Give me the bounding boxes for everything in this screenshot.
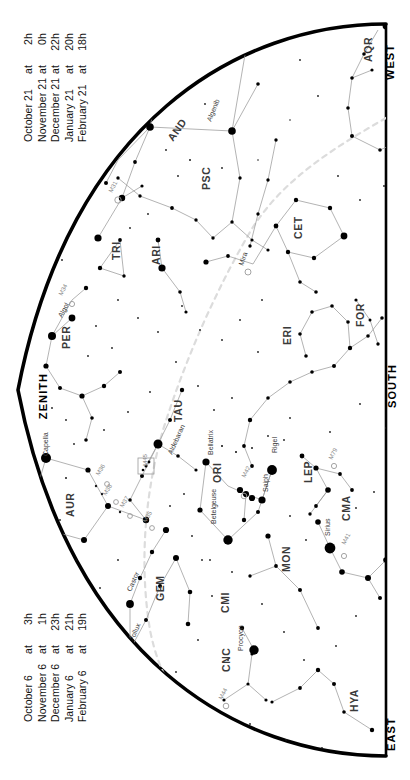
legend_top-time: 18h xyxy=(76,33,90,59)
star-label-castor: Castor xyxy=(126,570,141,592)
star-label-betelgeuse: Betelgeuse xyxy=(210,489,218,524)
dso-label-m41: M41 xyxy=(340,531,352,545)
constellation-label-aur: AUR xyxy=(64,492,76,517)
star-label-algenib: Algenib xyxy=(205,98,221,123)
legend_bottom-date: February 6 xyxy=(76,654,90,722)
legend_top-at: at xyxy=(63,59,77,74)
constellation-label-cma: CMA xyxy=(340,495,352,521)
constellation-label-per: PER xyxy=(60,326,72,349)
constellation-label-peg: PEG xyxy=(197,50,220,77)
legend_bottom-at: at xyxy=(22,639,36,654)
legend_bottom-at: at xyxy=(76,639,90,654)
dso-label-m31: M31 xyxy=(107,179,119,193)
star-label-aldebaran: Aldebaran xyxy=(167,423,186,455)
cardinal-south: SOUTH xyxy=(386,364,398,408)
legend_top-time: 2h xyxy=(22,33,36,59)
constellation-label-cmi: CMI xyxy=(219,592,231,613)
legend_top-row: December 21at22h xyxy=(49,33,63,142)
dso-label-m45: M45 xyxy=(141,453,148,466)
legend_top-row: October 21at2h xyxy=(22,33,36,142)
cardinal-zenith: ZENITH xyxy=(37,373,49,419)
legend_bottom-row: December 6at23h xyxy=(49,613,63,722)
dso-label-m34: M34 xyxy=(57,282,69,296)
legend_bottom-row: January 6at21h xyxy=(63,613,77,722)
constellation-label-tau: TAU xyxy=(172,399,184,422)
legend_top-at: at xyxy=(76,59,90,74)
star-chart: AQRPEGANDPSCCETTRIARIPERERIFORTAUAURORIL… xyxy=(0,0,410,780)
dso-label-m35: M35 xyxy=(141,509,154,523)
constellation-label-mon: MON xyxy=(280,546,292,572)
constellation-label-psc: PSC xyxy=(200,167,212,190)
constellation-label-and: AND xyxy=(165,116,189,143)
legend_bottom-date: December 6 xyxy=(49,654,63,722)
legend_top-time: 0h xyxy=(36,33,50,59)
star-label-capella: Capella xyxy=(42,432,50,456)
legend_top-row: January 21at20h xyxy=(63,33,77,142)
constellation-label-lep: LEP xyxy=(302,461,314,483)
legend_bottom-at: at xyxy=(63,639,77,654)
constellation-label-aqr: AQR xyxy=(362,37,374,62)
dso-label-m79: M79 xyxy=(327,446,339,460)
dso-label-m37: M37 xyxy=(118,494,131,508)
legend_top-row: February 21at18h xyxy=(76,33,90,142)
legend_top-at: at xyxy=(22,59,36,74)
star-label-sirius: Sirius xyxy=(324,518,331,536)
field-stars xyxy=(39,59,393,749)
legend_top-time: 20h xyxy=(63,33,77,59)
constellation-label-gem: GEM xyxy=(154,575,166,601)
legend_bottom-time: 23h xyxy=(49,613,63,639)
star-label-saiph: Saiph xyxy=(262,474,270,492)
constellation-label-ori: ORI xyxy=(211,463,223,483)
legend_bottom-at: at xyxy=(49,639,63,654)
cardinal-west: WEST xyxy=(384,44,396,80)
legend_bottom-row: November 6at1h xyxy=(36,613,50,722)
star-label-rigel: Rigel xyxy=(271,437,279,453)
constellation-label-eri: ERI xyxy=(281,326,293,345)
legend_bottom-row: February 6at19h xyxy=(76,613,90,722)
legend_top-row: November 21at0h xyxy=(36,33,50,142)
legend_bottom-time: 1h xyxy=(36,613,50,639)
constellation-label-tri: TRI xyxy=(110,241,122,260)
legend-dates-bottom: October 6at3hNovember 6at1hDecember 6at2… xyxy=(22,613,90,722)
legend-dates-top: October 21at2hNovember 21at0hDecember 21… xyxy=(22,33,90,142)
dso-label-m38: M38 xyxy=(101,482,114,496)
legend_bottom-time: 3h xyxy=(22,613,36,639)
legend_top-date: November 21 xyxy=(36,74,50,142)
star-label-bellatrix: Bellatrix xyxy=(207,430,214,455)
legend_top-at: at xyxy=(49,59,63,74)
constellation-label-cnc: CNC xyxy=(220,647,232,672)
constellation-label-hya: HYA xyxy=(348,689,360,712)
dso-label-m42: M42 xyxy=(240,464,252,478)
star-label-procyon: Procyon xyxy=(237,625,245,651)
constellation-lines xyxy=(36,30,398,730)
legend_bottom-date: October 6 xyxy=(22,654,36,722)
legend_top-time: 22h xyxy=(49,33,63,59)
legend_top-date: December 21 xyxy=(49,74,63,142)
legend_bottom-at: at xyxy=(36,639,50,654)
chart-labels: AQRPEGANDPSCCETTRIARIPERERIFORTAUAURORIL… xyxy=(42,37,374,712)
legend_bottom-time: 19h xyxy=(76,613,90,639)
constellation-label-for: FOR xyxy=(354,303,366,327)
legend_top-at: at xyxy=(36,59,50,74)
legend_bottom-date: January 6 xyxy=(63,654,77,722)
dso-label-m36: M36 xyxy=(94,462,107,476)
legend_bottom-row: October 6at3h xyxy=(22,613,36,722)
cardinal-east: EAST xyxy=(385,717,397,751)
legend_top-date: February 21 xyxy=(76,74,90,142)
legend_bottom-time: 21h xyxy=(63,613,77,639)
constellation-label-ari: ARI xyxy=(150,245,162,265)
legend_bottom-date: November 6 xyxy=(36,654,50,722)
legend_top-date: January 21 xyxy=(63,74,77,142)
legend_top-date: October 21 xyxy=(22,74,36,142)
constellation-label-cet: CET xyxy=(292,216,304,239)
